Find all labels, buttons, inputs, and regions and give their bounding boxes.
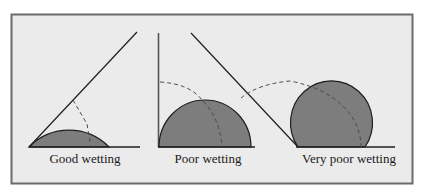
wetting-diagram: Good wetting Poor wetting Very poor wett… [0,0,428,188]
caption-very-poor-wetting: Very poor wetting [302,151,396,166]
caption-poor-wetting: Poor wetting [175,151,242,166]
caption-good-wetting: Good wetting [49,151,121,166]
